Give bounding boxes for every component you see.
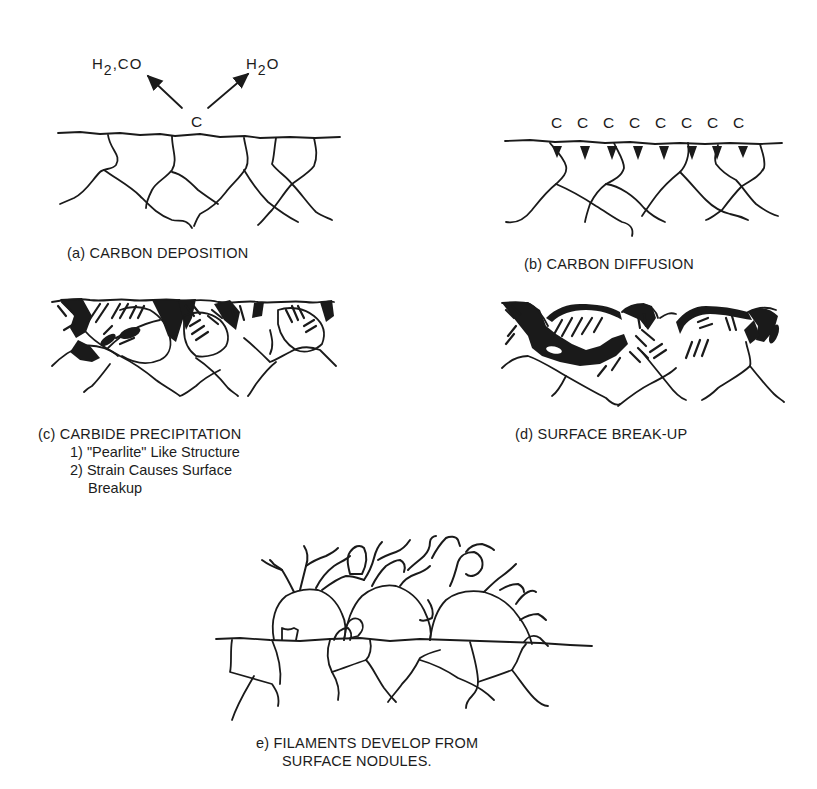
caption-surface-breakup: (d) SURFACE BREAK-UP: [515, 426, 687, 442]
panel-b-drawing: [505, 140, 782, 236]
carbon-atom-4: C: [629, 114, 640, 132]
panel-a-drawing: [58, 74, 340, 228]
panel-d-drawing: [502, 302, 784, 406]
note-pearlite-structure: 1) "Pearlite" Like Structure: [70, 444, 240, 460]
carbon-atom-label: C: [191, 113, 202, 131]
carbon-atom-1: C: [551, 114, 562, 132]
caption-filaments-line1: e) FILAMENTS DEVELOP FROM: [256, 735, 478, 751]
diffusion-wedges: [552, 146, 748, 160]
carbon-atom-3: C: [603, 114, 614, 132]
note-breakup-continued: Breakup: [88, 480, 142, 496]
diagram-artwork: [0, 0, 817, 789]
caption-carbon-deposition: (a) CARBON DEPOSITION: [67, 245, 248, 261]
breakup-carbide-mass: [502, 302, 778, 366]
panel-c-drawing: [52, 298, 336, 396]
caption-filaments-line2: SURFACE NODULES.: [282, 753, 432, 769]
arrow-to-h2-co: [148, 76, 182, 108]
carbon-atom-5: C: [655, 114, 666, 132]
caption-carbon-diffusion: (b) CARBON DIFFUSION: [524, 256, 694, 272]
caption-carbide-precipitation: (c) CARBIDE PRECIPITATION: [38, 426, 241, 442]
arrow-to-h2o: [208, 74, 248, 108]
carbon-atom-2: C: [577, 114, 588, 132]
carbon-atom-7: C: [707, 114, 718, 132]
note-strain-breakup: 2) Strain Causes Surface: [70, 462, 232, 478]
carbon-atom-8: C: [733, 114, 744, 132]
product-h2o-label: H2O: [246, 55, 279, 78]
panel-e-drawing: [216, 536, 592, 720]
carbon-atom-6: C: [681, 114, 692, 132]
product-h2-co-label: H2,CO: [92, 55, 142, 78]
